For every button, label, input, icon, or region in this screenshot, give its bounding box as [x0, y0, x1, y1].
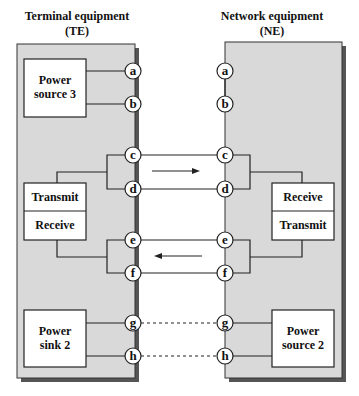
ne-title-abbrev: (NE) — [260, 24, 285, 38]
te-power-sink-2-label-1: Power — [39, 324, 72, 338]
ne-power-source-2-label-1: Power — [287, 324, 320, 338]
te-power-source-3-label-1: Power — [39, 73, 72, 87]
te-pin-f-label: f — [131, 265, 136, 280]
te-title-abbrev: (TE) — [65, 24, 89, 38]
arrow-right-icon — [152, 168, 200, 174]
ne-receive-label: Receive — [283, 190, 323, 204]
ne-pin-g-label: g — [222, 315, 229, 330]
te-transmit-label: Transmit — [31, 190, 78, 204]
ne-transmit-label: Transmit — [279, 218, 326, 232]
te-pin-d-label: d — [129, 181, 137, 196]
ne-pin-f-label: f — [223, 265, 228, 280]
te-receive-label: Receive — [35, 218, 75, 232]
ne-pin-e-label: e — [222, 232, 228, 247]
te-pin-g-label: g — [130, 315, 137, 330]
te-ne-interface-diagram: Terminal equipment (TE) Network equipmen… — [0, 0, 359, 396]
ne-pin-b-label: b — [221, 96, 228, 111]
te-pin-c-label: c — [130, 147, 136, 162]
te-pin-a-label: a — [130, 63, 137, 78]
ne-power-source-2-label-2: source 2 — [282, 338, 324, 352]
te-power-source-3-label-2: source 3 — [34, 87, 76, 101]
te-pin-b-label: b — [129, 96, 136, 111]
ne-pin-h-label: h — [221, 348, 229, 363]
ne-pin-a-label: a — [222, 63, 229, 78]
te-pin-h-label: h — [129, 348, 137, 363]
te-pin-e-label: e — [130, 232, 136, 247]
te-title: Terminal equipment — [25, 9, 130, 23]
ne-title: Network equipment — [221, 9, 323, 23]
ne-pin-d-label: d — [221, 181, 229, 196]
ne-pin-c-label: c — [222, 147, 228, 162]
te-power-sink-2-label-2: sink 2 — [40, 338, 70, 352]
arrow-left-icon — [154, 253, 202, 259]
